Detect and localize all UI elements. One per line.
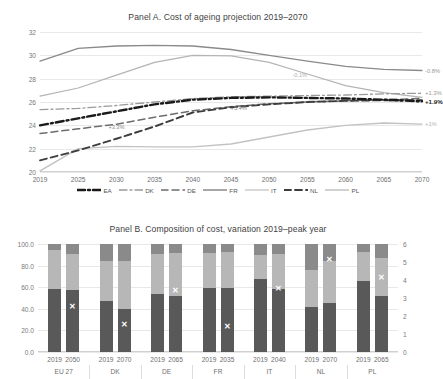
bar-column bbox=[66, 244, 79, 352]
bar-segment-1 bbox=[375, 296, 388, 352]
y-axis-right-tick-label: 2 bbox=[403, 313, 407, 320]
x-axis-tick-label: 2060 bbox=[338, 176, 353, 183]
legend-swatch-it bbox=[245, 186, 269, 194]
y-axis-tick-label: 20 bbox=[29, 169, 36, 176]
panel-b-plot: 0.020.040.060.080.0100.001234562019✕2050… bbox=[38, 244, 398, 352]
series-end-label: +1.3% bbox=[425, 90, 442, 96]
bar-segment-2 bbox=[48, 250, 61, 289]
y-axis-tick-label: 24 bbox=[29, 122, 36, 129]
y-axis-right-tick-label: 6 bbox=[403, 241, 407, 248]
bar-segment-3 bbox=[169, 244, 182, 253]
panel-a-series-layer bbox=[40, 32, 422, 172]
x-axis-tick-label: 2030 bbox=[109, 176, 124, 183]
line-series-fr bbox=[40, 45, 422, 70]
bar-segment-3 bbox=[66, 244, 79, 254]
panel-a: Panel A. Cost of ageing projection 2019–… bbox=[0, 0, 436, 212]
variation-marker: ✕ bbox=[121, 321, 128, 329]
y-axis-tick-label: 26 bbox=[29, 99, 36, 106]
x-axis-tick-label: 2040 bbox=[185, 176, 200, 183]
bar-segment-2 bbox=[203, 253, 216, 288]
x-axis-group-label: EU 27 bbox=[55, 368, 73, 375]
line-series-it bbox=[40, 55, 422, 97]
bar-column bbox=[272, 244, 285, 352]
line-series-de bbox=[40, 99, 422, 134]
series-end-label: +1.9% bbox=[425, 98, 443, 105]
x-axis-year-label: 2065 bbox=[374, 356, 389, 363]
legend-swatch-dk bbox=[119, 186, 143, 194]
legend-swatch-nl bbox=[284, 186, 308, 194]
bar-segment-1 bbox=[151, 294, 164, 352]
bar-segment-3 bbox=[357, 244, 370, 252]
variation-marker: ✕ bbox=[172, 287, 179, 295]
panel-b-title: Panel B. Composition of cost, variation … bbox=[0, 224, 436, 234]
y-axis-tick-label: 30 bbox=[29, 52, 36, 59]
bar-segment-2 bbox=[100, 261, 113, 301]
panel-a-legend: EADKDEFRITNLPL bbox=[0, 186, 436, 194]
series-inline-label: -0.1% bbox=[292, 72, 307, 78]
x-axis-group-label: FR bbox=[214, 368, 223, 375]
y-axis-right-tick-label: 4 bbox=[403, 277, 407, 284]
y-axis-tick-label: 32 bbox=[29, 29, 36, 36]
x-axis-tick-label: 2055 bbox=[300, 176, 315, 183]
y-axis-left-tick-label: 0.0 bbox=[25, 349, 34, 356]
series-inline-label: +3.3% bbox=[108, 124, 124, 130]
variation-marker: ✕ bbox=[69, 303, 76, 311]
legend-label: NL bbox=[310, 187, 318, 194]
bar-segment-2 bbox=[66, 254, 79, 290]
variation-marker: ✕ bbox=[378, 274, 385, 282]
series-end-label: +1% bbox=[425, 121, 437, 127]
x-axis-year-label: 2040 bbox=[271, 356, 286, 363]
x-axis-year-label: 2070 bbox=[323, 356, 338, 363]
x-axis-year-label: 2019 bbox=[356, 356, 371, 363]
legend-label: FR bbox=[229, 187, 237, 194]
legend-swatch-fr bbox=[203, 186, 227, 194]
x-axis-year-label: 2050 bbox=[65, 356, 80, 363]
series-inline-label: +5.4% bbox=[231, 105, 247, 111]
x-axis-year-label: 2019 bbox=[305, 356, 320, 363]
bar-column bbox=[118, 244, 131, 352]
legend-label: EA bbox=[103, 187, 111, 194]
bar-segment-1 bbox=[48, 289, 61, 352]
bar-segment-2 bbox=[221, 252, 234, 288]
y-axis-right-tick-label: 5 bbox=[403, 259, 407, 266]
series-end-label: -0.8% bbox=[425, 68, 440, 74]
legend-swatch-de bbox=[161, 186, 185, 194]
bar-segment-3 bbox=[118, 244, 131, 261]
bar-column bbox=[221, 244, 234, 352]
bar-segment-3 bbox=[48, 244, 61, 250]
legend-item-it: IT bbox=[245, 186, 277, 194]
x-axis-group-label: NL bbox=[317, 368, 325, 375]
bar-column bbox=[151, 244, 164, 352]
legend-label: IT bbox=[271, 187, 277, 194]
bar-segment-1 bbox=[169, 296, 182, 352]
y-axis-tick-label: 28 bbox=[29, 75, 36, 82]
legend-label: PL bbox=[352, 187, 360, 194]
x-axis-tick-label: 2070 bbox=[415, 176, 430, 183]
x-axis-year-label: 2019 bbox=[99, 356, 114, 363]
panel-a-title: Panel A. Cost of ageing projection 2019–… bbox=[0, 12, 436, 22]
x-axis-tick-label: 2025 bbox=[71, 176, 86, 183]
bar-column bbox=[203, 244, 216, 352]
x-axis-tick-label: 2035 bbox=[147, 176, 162, 183]
legend-item-dk: DK bbox=[119, 186, 154, 194]
bar-segment-3 bbox=[221, 244, 234, 252]
y-axis-tick-label: 22 bbox=[29, 145, 36, 152]
bar-segment-2 bbox=[151, 254, 164, 295]
bar-segment-2 bbox=[118, 261, 131, 309]
legend-item-fr: FR bbox=[203, 186, 238, 194]
legend-label: DK bbox=[145, 187, 154, 194]
variation-marker: ✕ bbox=[326, 256, 333, 264]
y-axis-left-tick-label: 60.0 bbox=[21, 284, 34, 291]
bar-column bbox=[100, 244, 113, 352]
y-axis-right-tick-label: 0 bbox=[403, 349, 407, 356]
bar-column bbox=[169, 244, 182, 352]
x-axis-tick-label: 2045 bbox=[224, 176, 239, 183]
bar-segment-3 bbox=[375, 244, 388, 258]
bar-segment-1 bbox=[323, 303, 336, 352]
variation-marker: ✕ bbox=[224, 323, 231, 331]
bar-segment-1 bbox=[221, 288, 234, 352]
bar-segment-1 bbox=[272, 289, 285, 352]
bar-segment-3 bbox=[254, 244, 267, 255]
legend-item-pl: PL bbox=[325, 186, 359, 194]
x-axis-tick-label: 2019 bbox=[33, 176, 48, 183]
